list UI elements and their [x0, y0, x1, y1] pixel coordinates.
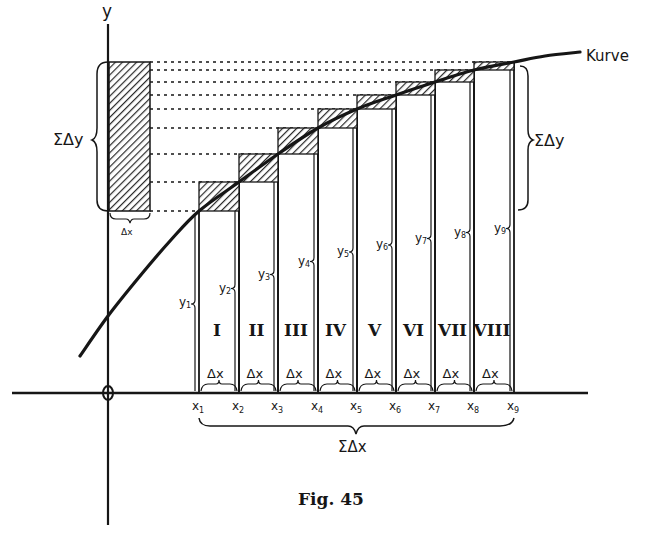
sum-dy-column: [109, 62, 150, 211]
dx-label: Δx: [247, 366, 264, 381]
sum-dy-brace-right: [518, 66, 533, 210]
y-brace: [466, 72, 470, 391]
y-value-label: y4: [298, 254, 310, 269]
y-value-label: y2: [219, 281, 231, 296]
y-brace: [231, 184, 235, 391]
dx-label: Δx: [404, 366, 421, 381]
dx-brace: [280, 380, 316, 391]
x-tick-label: x5: [350, 399, 362, 415]
x-tick-labels: x1x2x3x4x5x6x7x8x9: [192, 399, 519, 415]
sum-dy-label-right: ΣΔy: [534, 131, 565, 150]
y-value-label: y6: [376, 237, 388, 252]
y-brace: [349, 111, 353, 391]
x-tick-label: x3: [271, 399, 283, 415]
dx-brace-left: [110, 213, 150, 223]
sum-dx-brace: [199, 418, 514, 434]
dx-label: Δx: [326, 366, 343, 381]
curve: [80, 52, 580, 356]
x-tick-label: x1: [192, 399, 204, 415]
dx-label: Δx: [207, 366, 224, 381]
dx-label-left: Δx: [121, 227, 133, 237]
strip-numeral: VIII: [472, 320, 510, 340]
x-tick-label: x4: [311, 399, 323, 415]
strip-numeral: V: [367, 320, 382, 340]
dx-brace: [437, 380, 472, 391]
y-brace: [506, 64, 510, 391]
y-value-label: y1: [179, 295, 191, 310]
dx-brace: [201, 380, 237, 391]
x-tick-label: x8: [467, 399, 479, 415]
y-value-labels: y1y2y3y4y5y6y7y8y9: [179, 215, 506, 391]
sum-dy-brace-left: [92, 62, 108, 211]
strip-numeral: IV: [325, 320, 347, 340]
strip-numeral: I: [213, 320, 221, 340]
strip-numeral: III: [284, 320, 308, 340]
y-value-label: y7: [415, 231, 427, 246]
dx-brace: [359, 380, 394, 391]
dx-brace: [241, 380, 276, 391]
x-tick-label: x9: [507, 399, 519, 415]
dx-brace: [320, 380, 355, 391]
x-tick-label: x6: [389, 399, 401, 415]
sum-dy-label-left: ΣΔy: [53, 130, 84, 149]
riemann-sum-diagram: ΔxIΔxIIΔxIIIΔxIVΔxVΔxVIΔxVIIΔxVIII y Kur…: [0, 0, 652, 542]
dx-label: Δx: [482, 366, 499, 381]
y-brace: [191, 215, 195, 391]
dx-label: Δx: [365, 366, 382, 381]
dx-brace: [398, 380, 433, 391]
y-brace: [388, 97, 392, 391]
y-value-label: y9: [494, 221, 506, 236]
y-value-label: y8: [454, 225, 466, 240]
curve-label: Kurve: [586, 47, 629, 65]
x-tick-label: x2: [232, 399, 244, 415]
y-brace: [270, 156, 274, 391]
sum-dx-label: ΣΔx: [338, 438, 367, 456]
y-value-label: y3: [258, 267, 270, 282]
y-brace: [310, 130, 314, 391]
strip-numeral: VII: [437, 320, 467, 340]
y-brace: [427, 84, 431, 391]
y-value-label: y5: [337, 244, 349, 259]
dx-label: Δx: [443, 366, 460, 381]
figure-caption: Fig. 45: [298, 489, 364, 509]
strip-numeral: II: [249, 320, 265, 340]
x-tick-label: x7: [428, 399, 440, 415]
dx-brace: [476, 380, 512, 391]
strip-numeral: VI: [402, 320, 424, 340]
y-axis-label: y: [102, 1, 112, 21]
dx-label: Δx: [286, 366, 303, 381]
